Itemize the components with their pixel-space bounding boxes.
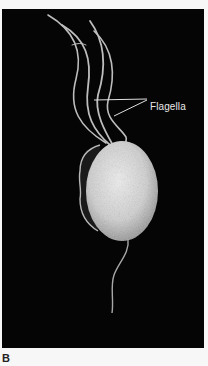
flagella <box>48 15 126 151</box>
panel-letter: B <box>2 352 10 364</box>
micrograph-image <box>2 9 204 348</box>
annotation-pointers <box>94 99 147 116</box>
flagella-label: Flagella <box>150 101 186 112</box>
posterior-flagellum <box>112 239 128 313</box>
micrograph-panel: Flagella <box>2 9 204 348</box>
